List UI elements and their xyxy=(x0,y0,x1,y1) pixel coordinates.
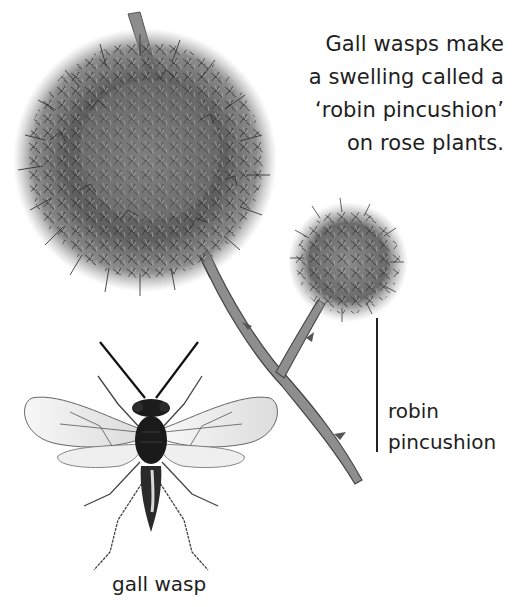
robin-pincushion-label-line-1: robin xyxy=(388,396,496,427)
caption-line-4: on rose plants. xyxy=(309,127,504,160)
caption: Gall wasps make a swelling called a ‘rob… xyxy=(309,28,504,160)
caption-line-1: Gall wasps make xyxy=(309,28,504,61)
robin-pincushion-label-line-2: pincushion xyxy=(388,427,496,458)
robin-pincushion-leader-line xyxy=(376,318,378,452)
gall-wasp xyxy=(25,342,278,570)
gall-wasp-label: gall wasp xyxy=(112,570,206,598)
caption-line-3: ‘robin pincushion’ xyxy=(309,94,504,127)
large-gall xyxy=(13,28,277,296)
caption-line-2: a swelling called a xyxy=(309,61,504,94)
small-gall xyxy=(288,198,408,322)
robin-pincushion-label: robin pincushion xyxy=(388,396,496,458)
